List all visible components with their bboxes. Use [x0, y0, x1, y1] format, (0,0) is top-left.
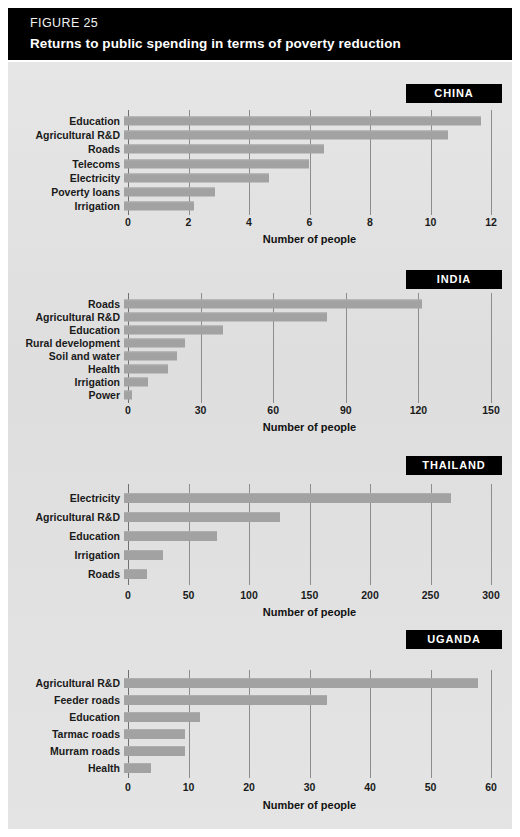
category-label: Irrigation — [8, 376, 124, 388]
category-label: Education — [8, 711, 124, 723]
category-label: Murram roads — [8, 745, 124, 757]
x-tick-label: 2 — [186, 216, 192, 228]
x-tick-label: 40 — [364, 781, 376, 793]
bar — [124, 678, 478, 688]
bar — [124, 569, 147, 579]
figure-title: Returns to public spending in terms of p… — [30, 34, 512, 54]
category-label: Roads — [8, 143, 124, 155]
bar — [124, 712, 200, 722]
category-label: Agricultural R&D — [8, 511, 124, 523]
bar-track — [124, 157, 487, 171]
x-axis: 0306090120150 — [128, 404, 491, 420]
bar-row: Agricultural R&D — [8, 507, 512, 526]
chart-panel-thailand: THAILANDElectricityAgricultural R&DEduca… — [8, 442, 512, 616]
category-label: Soil and water — [8, 350, 124, 362]
bar-row: Roads — [8, 297, 512, 310]
bar — [124, 746, 185, 756]
bar-rows: Agricultural R&DFeeder roadsEducationTar… — [8, 674, 512, 776]
x-tick-label: 10 — [183, 781, 195, 793]
bar — [124, 173, 269, 182]
bar-track — [124, 545, 487, 564]
bar-track — [124, 742, 487, 759]
x-tick-label: 0 — [125, 781, 131, 793]
x-tick-label: 6 — [307, 216, 313, 228]
category-label: Roads — [8, 568, 124, 580]
bar — [124, 390, 132, 399]
figure-number: FIGURE 25 — [30, 15, 512, 32]
category-label: Agricultural R&D — [8, 311, 124, 323]
category-label: Irrigation — [8, 200, 124, 212]
bar-row: Power — [8, 388, 512, 401]
bar-row: Rural development — [8, 336, 512, 349]
x-axis-title: Number of people — [128, 799, 491, 811]
category-label: Health — [8, 363, 124, 375]
x-tick-label: 0 — [125, 216, 131, 228]
bar — [124, 364, 168, 373]
bar-track — [124, 375, 487, 388]
bar-track — [124, 310, 487, 323]
category-label: Education — [8, 115, 124, 127]
bar-rows: RoadsAgricultural R&DEducationRural deve… — [8, 297, 512, 401]
bar — [124, 351, 177, 360]
x-tick-label: 60 — [267, 404, 279, 416]
category-label: Electricity — [8, 172, 124, 184]
x-tick-label: 90 — [340, 404, 352, 416]
figure-body: CHINAEducationAgricultural R&DRoadsTelec… — [8, 62, 512, 829]
bar — [124, 202, 194, 211]
x-tick-label: 0 — [125, 589, 131, 601]
bar-row: Roads — [8, 142, 512, 156]
category-label: Rural development — [8, 337, 124, 349]
bar-track — [124, 564, 487, 583]
x-axis-title: Number of people — [128, 421, 491, 433]
bar-row: Tarmac roads — [8, 725, 512, 742]
bar-rows: EducationAgricultural R&DRoadsTelecomsEl… — [8, 114, 512, 213]
bar — [124, 131, 448, 140]
bar-track — [124, 507, 487, 526]
x-tick-label: 50 — [183, 589, 195, 601]
category-label: Education — [8, 324, 124, 336]
bar — [124, 763, 151, 773]
category-label: Education — [8, 530, 124, 542]
x-tick-label: 20 — [243, 781, 255, 793]
bar-track — [124, 526, 487, 545]
x-tick-label: 0 — [125, 404, 131, 416]
bar-row: Agricultural R&D — [8, 128, 512, 142]
bar-row: Electricity — [8, 171, 512, 185]
bar — [124, 695, 327, 705]
bar-row: Telecoms — [8, 157, 512, 171]
bar-row: Education — [8, 526, 512, 545]
x-axis: 050100150200250300 — [128, 589, 491, 605]
bar — [124, 299, 422, 308]
bar-track — [124, 199, 487, 213]
bar-track — [124, 362, 487, 375]
category-label: Health — [8, 762, 124, 774]
x-axis: 024681012 — [128, 216, 491, 232]
bar-track — [124, 128, 487, 142]
bar-track — [124, 336, 487, 349]
bar-row: Murram roads — [8, 742, 512, 759]
bar-track — [124, 725, 487, 742]
x-tick-label: 50 — [425, 781, 437, 793]
bar-row: Education — [8, 114, 512, 128]
bar-rows: ElectricityAgricultural R&DEducationIrri… — [8, 488, 512, 583]
bar-row: Irrigation — [8, 199, 512, 213]
bar-row: Soil and water — [8, 349, 512, 362]
category-label: Irrigation — [8, 549, 124, 561]
category-label: Telecoms — [8, 158, 124, 170]
bar-row: Health — [8, 362, 512, 375]
bar — [124, 531, 217, 541]
category-label: Poverty loans — [8, 186, 124, 198]
bar — [124, 159, 309, 168]
x-tick-label: 12 — [485, 216, 497, 228]
bar-track — [124, 185, 487, 199]
category-label: Agricultural R&D — [8, 677, 124, 689]
bar-track — [124, 114, 487, 128]
bar-row: Poverty loans — [8, 185, 512, 199]
category-label: Tarmac roads — [8, 728, 124, 740]
bar-row: Electricity — [8, 488, 512, 507]
x-tick-label: 8 — [367, 216, 373, 228]
x-tick-label: 10 — [425, 216, 437, 228]
x-tick-label: 30 — [304, 781, 316, 793]
bar — [124, 312, 327, 321]
figure-header: FIGURE 25 Returns to public spending in … — [8, 8, 512, 60]
